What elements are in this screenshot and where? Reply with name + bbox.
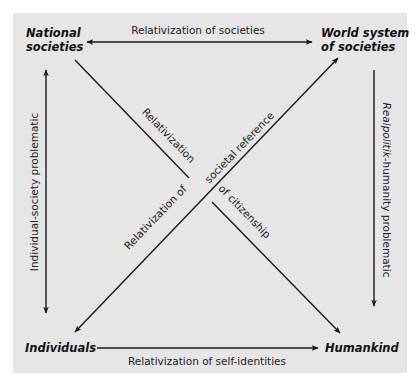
globalization-diagram: National societies World system of socie… [0,0,418,389]
left-edge-label: Individual-society problematic [28,113,40,272]
right-edge-label-rest: -humanity problematic [381,158,393,278]
node-humankind: Humankind [325,341,400,355]
panel-background [13,13,407,373]
right-edge-label: Realpolitik-humanity problematic [381,103,393,278]
node-individuals: Individuals [25,341,96,355]
top-edge-label: Relativization of societies [131,24,265,36]
bottom-edge-label: Relativization of self-identities [128,355,286,367]
right-edge-label-italic: Realpolitik [381,103,393,159]
node-national-societies: National societies [26,26,85,54]
